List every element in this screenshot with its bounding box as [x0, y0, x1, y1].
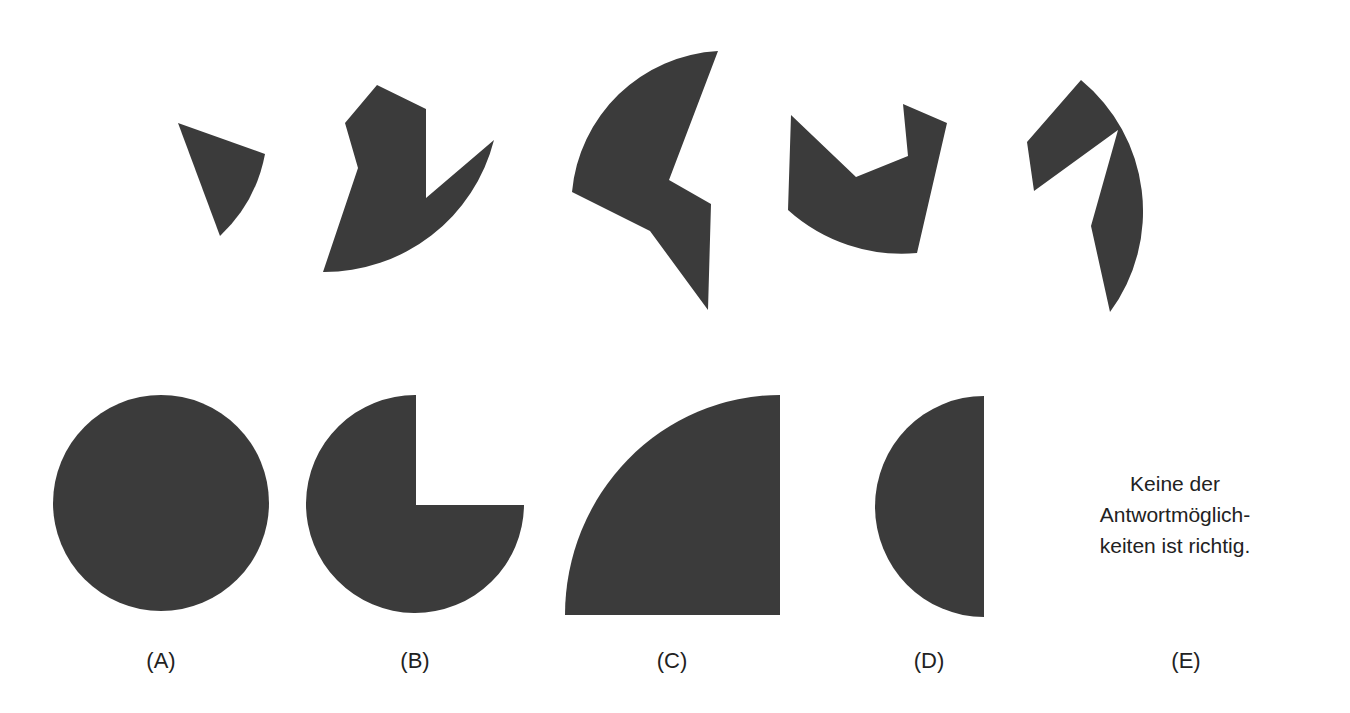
puzzle-piece-3	[572, 51, 718, 310]
answer-options	[53, 395, 984, 617]
option-b-label[interactable]: (B)	[375, 648, 455, 674]
option-b-three-quarter-circle[interactable]	[306, 395, 524, 613]
puzzle-pieces	[178, 51, 1143, 312]
option-d-label[interactable]: (D)	[889, 648, 969, 674]
option-e-text-line-1: Keine der	[1060, 468, 1290, 499]
option-e-text-line-2: Antwortmöglich-	[1060, 499, 1290, 530]
puzzle-piece-2	[323, 85, 494, 272]
option-c-quarter-circle[interactable]	[565, 395, 780, 615]
puzzle-canvas	[0, 0, 1350, 713]
option-d-half-circle[interactable]	[875, 396, 984, 617]
option-e-text-line-3: keiten ist richtig.	[1060, 530, 1290, 561]
puzzle-piece-5	[1027, 80, 1143, 312]
option-e-label[interactable]: (E)	[1146, 648, 1226, 674]
option-a-full-circle[interactable]	[53, 395, 269, 611]
option-a-label[interactable]: (A)	[121, 648, 201, 674]
puzzle-piece-1	[178, 123, 265, 236]
puzzle-piece-4	[788, 104, 947, 254]
option-c-label[interactable]: (C)	[632, 648, 712, 674]
option-e-text[interactable]: Keine der Antwortmöglich- keiten ist ric…	[1060, 468, 1290, 561]
